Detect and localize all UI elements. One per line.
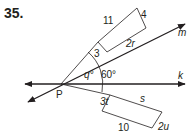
lower-rect-s-label: s — [140, 93, 145, 104]
point-p-label: P — [56, 89, 63, 100]
angle-60-label: 60° — [101, 69, 116, 80]
lower-rect-2u-label: 2u — [157, 121, 170, 132]
lower-rect-10-label: 10 — [118, 122, 130, 133]
upper-rect-3-label: 3 — [94, 48, 100, 59]
geometry-diagram: P k m q° 60° 11 4 2r 3 3t s 10 2u — [0, 0, 196, 138]
angle-q-label: q° — [84, 69, 94, 80]
line-m — [28, 24, 185, 102]
line-m-label: m — [178, 27, 186, 38]
upper-rect-4-label: 4 — [141, 9, 147, 20]
line-k-label: k — [178, 70, 184, 81]
upper-rect-11-label: 11 — [103, 15, 114, 26]
lower-rectangle — [102, 95, 162, 128]
upper-rect-2r-label: 2r — [125, 38, 136, 49]
lower-rect-3t-label: 3t — [100, 96, 110, 107]
